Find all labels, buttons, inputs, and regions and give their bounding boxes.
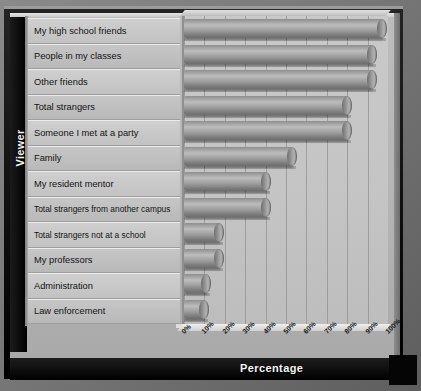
category-label-row: Law enforcement: [28, 299, 180, 325]
category-label: My high school friends: [34, 26, 127, 36]
bar-cap: [287, 147, 297, 166]
bar: [184, 274, 206, 293]
category-label: Total strangers not at a school: [34, 230, 146, 240]
bar: [184, 172, 266, 191]
category-label: Family: [34, 153, 61, 163]
bar-cap: [342, 121, 352, 140]
bar: [184, 96, 347, 115]
bar-series: [184, 16, 388, 324]
category-label: People in my classes: [34, 51, 121, 61]
frame-corner: [389, 355, 417, 385]
bar-row: [184, 220, 388, 246]
x-axis-ticks: 0%10%20%30%40%50%60%70%80%90%100%: [182, 330, 388, 358]
bar: [184, 147, 292, 166]
category-label: Law enforcement: [34, 306, 105, 316]
bar-row: [184, 67, 388, 93]
plot-area: [182, 16, 388, 324]
bar-cap: [199, 300, 209, 319]
bar-row: [184, 42, 388, 68]
category-label-row: Total strangers: [28, 95, 180, 121]
bar-row: [184, 297, 388, 323]
bar-cap: [261, 198, 271, 217]
bar: [184, 121, 347, 140]
category-label-row: My resident mentor: [28, 171, 180, 197]
category-label-row: Administration: [28, 273, 180, 299]
category-label: Total strangers from another campus: [34, 204, 170, 214]
x-axis-title: Percentage: [240, 362, 303, 374]
chart-screenshot: Viewer My high school friendsPeople in m…: [0, 0, 421, 391]
bar-shadow: [184, 319, 208, 322]
category-label: My professors: [34, 255, 92, 265]
bar-cap: [367, 70, 377, 89]
category-label-row: My high school friends: [28, 18, 180, 44]
category-label-row: Total strangers from another campus: [28, 197, 180, 223]
bar-row: [184, 246, 388, 272]
bar-cap: [377, 19, 387, 38]
bar-cap: [367, 45, 377, 64]
bar-row: [184, 169, 388, 195]
bar-row: [184, 93, 388, 119]
bar: [184, 70, 372, 89]
bar-cap: [261, 172, 271, 191]
category-label-row: Family: [28, 146, 180, 172]
category-label-row: People in my classes: [28, 44, 180, 70]
bar: [184, 300, 204, 319]
bar: [184, 249, 219, 268]
bar-cap: [342, 96, 352, 115]
category-label-row: Other friends: [28, 69, 180, 95]
bar: [184, 198, 266, 217]
frame-highlight: [4, 6, 403, 9]
category-label-row: Total strangers not at a school: [28, 222, 180, 248]
category-label: Someone I met at a party: [34, 128, 138, 138]
category-label-row: Someone I met at a party: [28, 120, 180, 146]
category-label-column: My high school friendsPeople in my class…: [28, 18, 180, 324]
category-label: My resident mentor: [34, 179, 114, 189]
category-label-row: My professors: [28, 248, 180, 274]
bar-cap: [201, 274, 211, 293]
bar-cap: [214, 223, 224, 242]
plate-right-edge: [394, 13, 400, 365]
category-label: Other friends: [34, 77, 88, 87]
category-label: Administration: [34, 281, 93, 291]
x-axis-strip: [10, 358, 400, 380]
bar: [184, 19, 382, 38]
bar-row: [184, 144, 388, 170]
bar-row: [184, 271, 388, 297]
category-label: Total strangers: [34, 102, 95, 112]
bar: [184, 223, 219, 242]
bar-row: [184, 118, 388, 144]
bar: [184, 45, 372, 64]
bar-row: [184, 16, 388, 42]
bar-row: [184, 195, 388, 221]
bar-cap: [214, 249, 224, 268]
